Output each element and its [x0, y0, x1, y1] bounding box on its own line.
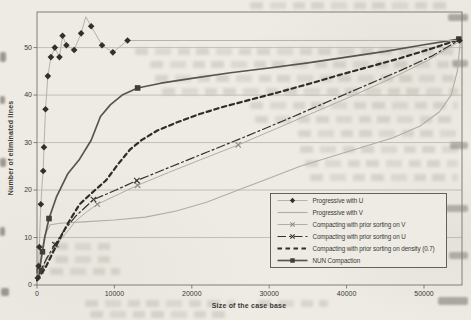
y-tick-label: 40: [24, 91, 32, 98]
diamond-marker: [52, 44, 59, 51]
diamond-marker: [48, 54, 55, 61]
x-tick-label: 40000: [337, 290, 357, 297]
square-marker: [40, 249, 46, 255]
y-tick-label: 10: [24, 234, 32, 241]
line-chart: 0102030405001000020000300004000050000Pro…: [0, 0, 471, 320]
y-axis-title: Number of eliminated lines: [7, 101, 14, 196]
legend-label: Compacting with prior sorting on density…: [313, 245, 435, 253]
diamond-marker: [59, 32, 66, 39]
x-tick-label: 0: [35, 290, 39, 297]
diamond-marker: [88, 23, 95, 30]
y-tick-label: 50: [24, 44, 32, 51]
scanned-page: Number of eliminated lines Size of the c…: [0, 0, 471, 320]
legend-label: Progressive with U: [313, 197, 364, 205]
square-marker: [135, 85, 141, 91]
diamond-marker: [78, 30, 85, 37]
diamond-marker: [41, 144, 48, 151]
square-marker: [46, 216, 52, 222]
square-marker: [37, 268, 43, 274]
y-tick-label: 0: [28, 281, 32, 288]
legend: Progressive with UProgressive with VComp…: [271, 194, 447, 268]
x-tick-label: 30000: [259, 290, 279, 297]
diamond-marker: [40, 168, 47, 175]
x-tick-label: 10000: [105, 290, 125, 297]
y-tick-label: 30: [24, 139, 32, 146]
diamond-marker: [42, 106, 49, 113]
legend-label: Progressive with V: [313, 209, 364, 217]
diamond-marker: [34, 275, 41, 282]
y-tick-label: 20: [24, 186, 32, 193]
square-marker: [290, 258, 294, 262]
legend-label: NUN Compaction: [313, 257, 361, 265]
x-tick-label: 20000: [182, 290, 202, 297]
legend-label: Compacting with prior sorting on U: [313, 233, 407, 241]
diamond-marker: [38, 201, 45, 208]
diamond-marker: [45, 73, 52, 80]
x-tick-label: 50000: [414, 290, 434, 297]
diamond-marker: [56, 54, 63, 61]
x-axis-title: Size of the case base: [212, 302, 287, 309]
legend-label: Compacting with prior sorting on V: [313, 221, 407, 229]
